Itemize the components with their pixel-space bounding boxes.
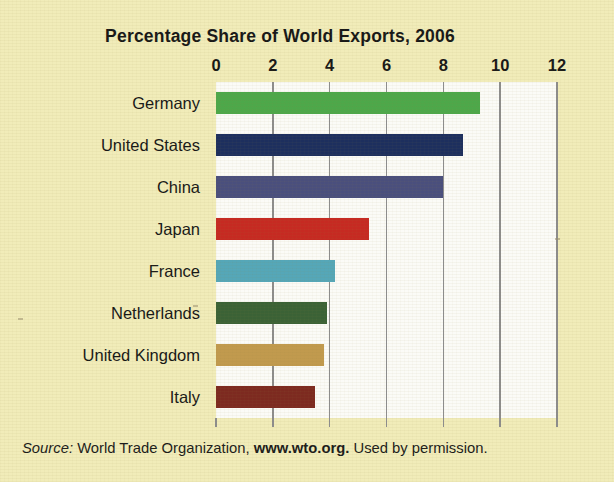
category-label-germany: Germany xyxy=(0,82,208,124)
bar-italy xyxy=(216,386,315,408)
bar-germany xyxy=(216,92,480,114)
x-tick-label-4: 4 xyxy=(325,56,334,75)
category-label-netherlands: Netherlands xyxy=(0,292,208,334)
paper-speck xyxy=(193,305,198,307)
bar-row xyxy=(216,292,557,334)
category-label-china: China xyxy=(0,166,208,208)
source-note: Source: World Trade Organization, www.wt… xyxy=(22,440,488,456)
bar-china xyxy=(216,176,443,198)
bar-netherlands xyxy=(216,302,327,324)
chart-title: Percentage Share of World Exports, 2006 xyxy=(0,26,560,47)
bar-row xyxy=(216,376,557,418)
chart-figure: Percentage Share of World Exports, 2006 … xyxy=(0,0,614,482)
tick-mark-10 xyxy=(499,418,501,427)
bar-row xyxy=(216,334,557,376)
category-label-united-kingdom: United Kingdom xyxy=(0,334,208,376)
bar-row xyxy=(216,124,557,166)
tick-mark-2 xyxy=(272,418,274,427)
source-permission: Used by permission. xyxy=(353,440,487,456)
tick-mark-12 xyxy=(556,418,558,427)
bar-france xyxy=(216,260,335,282)
paper-speck xyxy=(555,238,560,240)
tick-mark-8 xyxy=(443,418,445,427)
bars-layer xyxy=(216,82,557,418)
x-tick-label-6: 6 xyxy=(382,56,391,75)
x-tick-label-10: 10 xyxy=(491,56,509,75)
category-label-france: France xyxy=(0,250,208,292)
tick-mark-4 xyxy=(329,418,331,427)
x-axis-tick-labels: 024681012 xyxy=(216,56,557,78)
category-label-united-states: United States xyxy=(0,124,208,166)
x-tick-label-12: 12 xyxy=(548,56,566,75)
bar-row xyxy=(216,166,557,208)
category-label-japan: Japan xyxy=(0,208,208,250)
bar-row xyxy=(216,250,557,292)
source-url[interactable]: www.wto.org. xyxy=(254,440,350,456)
bar-japan xyxy=(216,218,369,240)
y-axis-category-labels: GermanyUnited StatesChinaJapanFranceNeth… xyxy=(0,82,208,418)
bar-row xyxy=(216,82,557,124)
plot-area xyxy=(216,82,558,418)
x-tick-label-8: 8 xyxy=(439,56,448,75)
x-tick-label-0: 0 xyxy=(211,56,220,75)
x-tick-label-2: 2 xyxy=(268,56,277,75)
tick-mark-0 xyxy=(215,418,217,427)
tick-mark-6 xyxy=(386,418,388,427)
paper-speck xyxy=(18,318,23,320)
category-label-italy: Italy xyxy=(0,376,208,418)
source-label: Source: xyxy=(22,440,73,456)
bar-united-kingdom xyxy=(216,344,324,366)
source-organization: World Trade Organization, xyxy=(77,440,249,456)
bar-united-states xyxy=(216,134,463,156)
bar-row xyxy=(216,208,557,250)
